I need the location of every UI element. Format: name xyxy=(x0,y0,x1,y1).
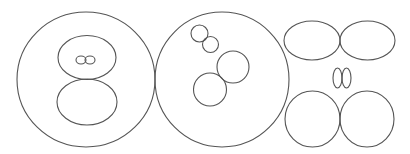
middle-group-small-circle-b xyxy=(203,37,219,53)
left-group xyxy=(17,12,155,147)
circle-diagram xyxy=(0,0,410,154)
middle-group-outer-circle xyxy=(155,12,289,147)
right-group-bottom-circle-left xyxy=(285,91,340,147)
right-group-small-ellipse-right xyxy=(342,68,351,88)
middle-group xyxy=(155,12,289,147)
right-group-bottom-circle-right xyxy=(340,91,394,147)
middle-group-medium-circle-lower xyxy=(194,73,227,106)
right-group-small-ellipse-left xyxy=(333,68,342,88)
middle-group-small-circle-a xyxy=(191,25,208,42)
right-group-top-ellipse-left xyxy=(284,21,340,60)
left-group-lower-inner-ellipse xyxy=(57,79,117,125)
right-group xyxy=(284,21,395,147)
right-group-top-ellipse-right xyxy=(340,21,395,60)
left-group-upper-inner-ellipse xyxy=(58,36,116,80)
